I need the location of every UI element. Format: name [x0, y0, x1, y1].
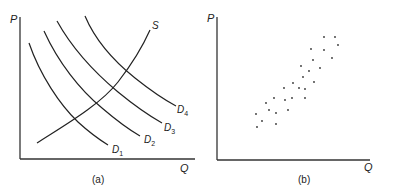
scatter-point: [308, 70, 310, 72]
demand-curve-d4: [85, 16, 176, 106]
scatter-point: [287, 109, 289, 111]
scatter-point: [291, 97, 293, 99]
demand-curve-d2: [44, 31, 140, 136]
supply-label: S: [152, 20, 159, 31]
scatter-point: [273, 97, 275, 99]
scatter-point: [304, 97, 306, 99]
supply-curve: [37, 30, 150, 143]
d1-label: D1: [112, 144, 123, 157]
scatter-point: [323, 49, 325, 51]
scatter-point: [261, 120, 263, 122]
scatter-point: [304, 88, 306, 90]
d4-label: D4: [177, 104, 188, 117]
scatter-point: [298, 87, 300, 89]
scatter-point: [283, 87, 285, 89]
scatter-point: [313, 81, 315, 83]
figure: P Q (a) S D1 D2 D3 D4 P Q (b): [0, 0, 393, 193]
panel-a-caption: (a): [92, 174, 104, 185]
scatter-points: [255, 36, 339, 128]
panel-b-y-label: P: [207, 12, 215, 24]
panel-a-x-label: Q: [180, 162, 189, 174]
scatter-point: [292, 82, 294, 84]
scatter-point: [310, 48, 312, 50]
scatter-point: [256, 126, 258, 128]
scatter-point: [284, 99, 286, 101]
scatter-point: [300, 65, 302, 67]
demand-curve-d3: [57, 21, 162, 123]
d2-label: D2: [144, 134, 155, 147]
scatter-point: [312, 59, 314, 61]
d3-label: D3: [164, 122, 175, 135]
scatter-point: [331, 57, 333, 59]
scatter-point: [268, 109, 270, 111]
scatter-point: [265, 102, 267, 104]
scatter-point: [255, 113, 257, 115]
panel-a: P Q (a) S D1 D2 D3 D4: [10, 13, 195, 185]
demand-curve-d1: [29, 43, 108, 145]
scatter-point: [319, 67, 321, 69]
panel-b-x-label: Q: [364, 161, 373, 173]
scatter-point: [302, 76, 304, 78]
scatter-point: [334, 36, 336, 38]
scatter-point: [275, 123, 277, 125]
panel-a-y-label: P: [10, 13, 18, 25]
panel-b-caption: (b): [298, 174, 310, 185]
scatter-point: [275, 112, 277, 114]
panel-b: P Q (b): [207, 12, 373, 185]
scatter-point: [323, 36, 325, 38]
scatter-point: [337, 44, 339, 46]
